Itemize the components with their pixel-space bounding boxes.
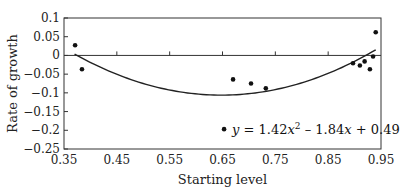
y-axis-title: Rate of growth — [5, 34, 20, 133]
y-tick-label: 0.05 — [33, 30, 60, 44]
data-point — [222, 127, 227, 132]
data-point — [373, 30, 378, 35]
data-point — [371, 54, 376, 59]
data-point — [358, 63, 363, 68]
y-tick-label: −0.05 — [23, 67, 60, 81]
data-point — [80, 67, 85, 72]
data-point — [231, 77, 236, 82]
y-tick-label: 0.1 — [41, 11, 60, 25]
data-points — [73, 30, 378, 132]
zero-line-ticks — [117, 51, 328, 55]
y-axis-ticks: 0.10.050−0.05−0.1−0.15−0.2−0.25 — [23, 11, 68, 156]
x-tick-label: 0.95 — [368, 153, 395, 167]
data-point — [73, 43, 78, 48]
data-point — [249, 81, 254, 86]
x-tick-label: 0.45 — [103, 153, 130, 167]
x-tick-label: 0.85 — [315, 153, 342, 167]
y-tick-label: −0.2 — [31, 123, 60, 137]
y-tick-label: 0 — [52, 48, 60, 62]
fit-equation: y = 1.42x2 – 1.84x + 0.49 — [231, 121, 400, 137]
data-point — [351, 61, 356, 66]
x-tick-label: 0.35 — [51, 153, 78, 167]
x-tick-label: 0.65 — [209, 153, 236, 167]
y-tick-label: −0.15 — [23, 105, 60, 119]
data-point — [368, 67, 373, 72]
x-tick-label: 0.55 — [156, 153, 183, 167]
x-axis-title: Starting level — [178, 172, 267, 187]
scatter-chart: 0.10.050−0.05−0.1−0.15−0.2−0.25 0.350.45… — [0, 0, 401, 194]
data-point — [362, 59, 367, 64]
x-axis-ticks: 0.350.450.550.650.750.850.95 — [51, 153, 395, 167]
x-tick-label: 0.75 — [262, 153, 289, 167]
y-tick-label: −0.1 — [31, 86, 60, 100]
data-point — [264, 86, 269, 91]
fit-curve — [75, 50, 376, 95]
